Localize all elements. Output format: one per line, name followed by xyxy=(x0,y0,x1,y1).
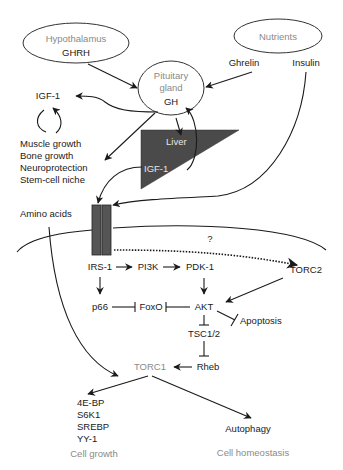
cell-membrane-left xyxy=(17,230,92,252)
pituitary-node: Pituitary gland GH xyxy=(138,61,204,115)
target-item: 4E-BP xyxy=(77,397,104,408)
loop-left xyxy=(37,110,46,132)
effect-item: Neuroprotection xyxy=(20,162,88,173)
arrow-torc1-to-targets xyxy=(88,376,148,394)
rheb-label: Rheb xyxy=(197,361,220,372)
arrow-ghrh-to-pituitary xyxy=(88,64,137,88)
tsc-label: TSC1/2 xyxy=(188,328,220,339)
igf1-receptor xyxy=(92,205,111,255)
nutrients-node: Nutrients xyxy=(234,19,322,53)
target-item: SREBP xyxy=(77,421,109,432)
arrow-ghrelin-to-pituitary xyxy=(206,72,252,87)
unknown-link-question-mark: ? xyxy=(207,233,212,244)
gh-label: GH xyxy=(164,96,178,107)
akt-label: AKT xyxy=(195,301,214,312)
cell-membrane-right xyxy=(113,226,326,250)
inhibit-akt-apoptosis xyxy=(217,311,235,320)
torc1-label: TORC1 xyxy=(134,361,166,372)
apoptosis-label: Apoptosis xyxy=(240,315,282,326)
autophagy-label: Autophagy xyxy=(225,423,271,434)
liver-igf1-label: IGF-1 xyxy=(144,163,168,174)
pdk1-label: PDK-1 xyxy=(186,261,214,272)
torc1-targets-list: 4E-BP S6K1 SREBP YY-1 xyxy=(77,397,109,444)
effect-item: Stem-cell niche xyxy=(20,174,85,185)
pituitary-label-line2: gland xyxy=(159,82,182,93)
liver-node: Liver IGF-1 xyxy=(141,130,239,189)
cell-growth-caption: Cell growth xyxy=(70,448,118,459)
torc2-label: TORC2 xyxy=(290,264,322,275)
pituitary-label-line1: Pituitary xyxy=(154,70,189,81)
amino-acids-label: Amino acids xyxy=(20,208,72,219)
foxo-label: FoxO xyxy=(139,301,162,312)
arrow-liver-igf1-to-receptor xyxy=(98,167,142,203)
p66-label: p66 xyxy=(92,301,108,312)
arrow-torc1-to-autophagy xyxy=(152,376,251,418)
loop-right-arrow-icon xyxy=(53,108,61,133)
cell-homeostasis-caption: Cell homeostasis xyxy=(217,447,290,458)
igf1-effects-list: Muscle growth Bone growth Neuroprotectio… xyxy=(20,138,88,185)
hypothalamus-label: Hypothalamus xyxy=(46,33,107,44)
ghrh-label: GHRH xyxy=(62,47,90,58)
effect-item: Muscle growth xyxy=(20,138,81,149)
igf1-label: IGF-1 xyxy=(36,90,60,101)
nutrients-label: Nutrients xyxy=(259,31,297,42)
pi3k-label: PI3K xyxy=(138,261,159,272)
liver-label: Liver xyxy=(166,136,187,147)
arrow-torc2-to-akt xyxy=(226,278,283,302)
inhibit-bar-icon xyxy=(231,314,238,326)
ghrelin-label: Ghrelin xyxy=(229,57,260,68)
target-item: S6K1 xyxy=(77,409,100,420)
irs1-label: IRS-1 xyxy=(88,261,112,272)
target-item: YY-1 xyxy=(77,433,97,444)
effect-item: Bone growth xyxy=(20,150,73,161)
hypothalamus-node: Hypothalamus GHRH xyxy=(23,23,129,63)
igf1-signaling-diagram: Hypothalamus GHRH Nutrients Ghrelin Insu… xyxy=(0,0,343,470)
insulin-label: Insulin xyxy=(292,57,319,68)
